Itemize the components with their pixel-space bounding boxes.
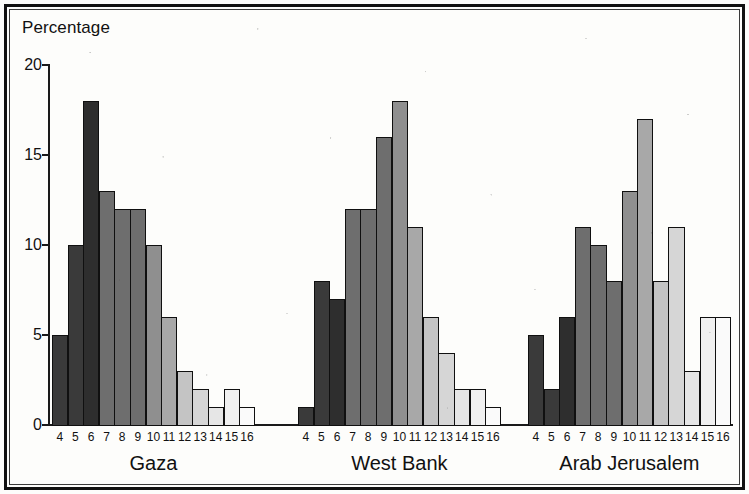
x-tick-label: 14: [209, 430, 222, 444]
bar: [637, 119, 653, 426]
x-tick-label: 10: [147, 430, 160, 444]
x-tick-label: 9: [380, 430, 387, 444]
x-tick-label: 16: [240, 430, 253, 444]
bar: [68, 245, 84, 426]
x-tick-label: 6: [334, 430, 341, 444]
x-tick-label: 10: [393, 430, 406, 444]
bar: [83, 101, 99, 426]
bar: [684, 371, 700, 426]
group-label: West Bank: [351, 452, 447, 475]
x-tick-label: 15: [225, 430, 238, 444]
bar: [653, 281, 669, 426]
bar: [485, 407, 501, 426]
x-tick-label: 11: [163, 430, 175, 444]
bar: [99, 191, 115, 426]
bar: [161, 317, 177, 426]
x-tick-label: 12: [178, 430, 191, 444]
x-tick-label: 8: [595, 430, 602, 444]
x-tick-label: 14: [455, 430, 468, 444]
bar: [329, 299, 345, 426]
x-tick-label: 14: [685, 430, 698, 444]
x-tick-label: 11: [409, 430, 421, 444]
bar: [177, 371, 193, 426]
bar: [559, 317, 575, 426]
x-tick-label: 8: [119, 430, 126, 444]
x-tick-label: 16: [716, 430, 729, 444]
x-tick-label: 9: [134, 430, 141, 444]
x-tick-label: 7: [349, 430, 356, 444]
bar: [423, 317, 439, 426]
group-label: Gaza: [129, 452, 177, 475]
x-tick-label: 9: [610, 430, 617, 444]
bar: [528, 335, 544, 426]
x-tick-label: 7: [579, 430, 586, 444]
x-tick-label: 12: [424, 430, 437, 444]
bars-layer: [0, 0, 749, 426]
x-tick-label: 5: [548, 430, 555, 444]
bar: [314, 281, 330, 426]
bar: [224, 389, 240, 426]
x-tick-label: 5: [72, 430, 79, 444]
bar: [544, 389, 560, 426]
bar: [470, 389, 486, 426]
bar: [360, 209, 376, 426]
x-tick-label: 13: [440, 430, 453, 444]
x-tick-label: 8: [365, 430, 372, 444]
bar: [715, 317, 731, 426]
bar-chart-plot: Percentage 05101520 45678910111213141516…: [0, 0, 749, 494]
bar: [622, 191, 638, 426]
bar: [376, 137, 392, 426]
bar: [407, 227, 423, 426]
bar: [130, 209, 146, 426]
bar: [208, 407, 224, 426]
x-tick-label: 12: [654, 430, 667, 444]
x-tick-label: 13: [670, 430, 683, 444]
x-tick-label: 10: [623, 430, 636, 444]
x-tick-label: 4: [302, 430, 309, 444]
x-tick-label: 16: [486, 430, 499, 444]
x-tick-label: 4: [56, 430, 63, 444]
bar: [114, 209, 130, 426]
bar: [146, 245, 162, 426]
x-tick-label: 5: [318, 430, 325, 444]
x-tick-label: 4: [532, 430, 539, 444]
bar: [298, 407, 314, 426]
x-tick-label: 13: [194, 430, 207, 444]
bar: [52, 335, 68, 426]
bar: [438, 353, 454, 426]
bar: [668, 227, 684, 426]
x-tick-label: 7: [103, 430, 110, 444]
x-tick-label: 15: [471, 430, 484, 444]
bar: [192, 389, 208, 426]
bar: [606, 281, 622, 426]
bar: [239, 407, 255, 426]
bar: [392, 101, 408, 426]
group-label: Arab Jerusalem: [559, 452, 699, 475]
figure-container: Percentage 05101520 45678910111213141516…: [0, 0, 749, 494]
x-tick-label: 6: [88, 430, 95, 444]
x-tick-label: 6: [564, 430, 571, 444]
x-tick-label: 15: [701, 430, 714, 444]
bar: [700, 317, 716, 426]
x-tick-label: 11: [639, 430, 651, 444]
bar: [575, 227, 591, 426]
bar: [454, 389, 470, 426]
bar: [590, 245, 606, 426]
bar: [345, 209, 361, 426]
